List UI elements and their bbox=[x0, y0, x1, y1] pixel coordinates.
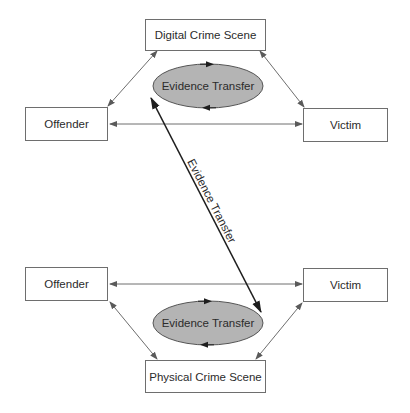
evidence-transfer-link-arrow bbox=[151, 98, 261, 312]
digital-crime-scene-label: Digital Crime Scene bbox=[155, 29, 257, 41]
digital-evidence-transfer-label-wrap: Evidence Transfer bbox=[153, 76, 263, 96]
digital-victim-label: Victim bbox=[330, 119, 361, 131]
digital-evidence-transfer-label: Evidence Transfer bbox=[162, 80, 255, 92]
digital-victim-box: Victim bbox=[303, 108, 388, 142]
physical-crime-scene-label: Physical Crime Scene bbox=[149, 371, 261, 383]
physical-crime-scene-box: Physical Crime Scene bbox=[145, 360, 266, 393]
digital-crime-scene-box: Digital Crime Scene bbox=[145, 19, 266, 51]
digital-offender-box: Offender bbox=[25, 107, 108, 141]
physical-offender-label: Offender bbox=[44, 278, 89, 290]
physical-scene-offender-arrow bbox=[110, 302, 157, 359]
digital-scene-offender-arrow bbox=[108, 51, 157, 106]
physical-offender-box: Offender bbox=[25, 267, 108, 301]
digital-offender-label: Offender bbox=[44, 118, 89, 130]
diagram-canvas bbox=[0, 0, 410, 413]
physical-evidence-transfer-label: Evidence Transfer bbox=[162, 317, 255, 329]
physical-victim-box: Victim bbox=[303, 268, 388, 302]
digital-scene-victim-arrow bbox=[260, 51, 304, 107]
physical-evidence-transfer-label-wrap: Evidence Transfer bbox=[153, 313, 263, 333]
physical-victim-label: Victim bbox=[330, 279, 361, 291]
